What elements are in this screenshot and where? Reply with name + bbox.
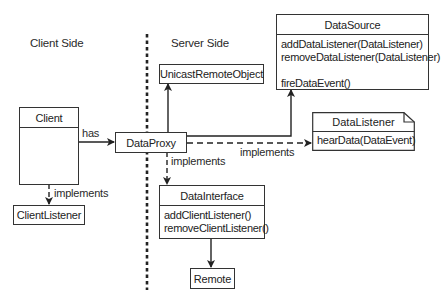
class-name: DataListener: [312, 112, 415, 131]
class-name: ClientListener: [17, 209, 81, 221]
clientlistener-interface[interactable]: ClientListener: [13, 205, 85, 225]
class-name: DataSource: [277, 15, 428, 35]
uml-class-diagram: Client Side Server Side UnicastRemoteObj…: [0, 0, 442, 301]
class-name: Client: [20, 108, 78, 128]
listener-implements-label: implements: [240, 146, 294, 158]
operations-compartment: addClientListener() removeClientListener…: [160, 206, 264, 235]
operation: addClientListener(): [164, 209, 260, 222]
operation: fireDataEvent(): [281, 77, 424, 90]
has-label: has: [82, 127, 99, 139]
class-name: Remote: [194, 273, 231, 285]
operation: removeClientListener(): [164, 222, 260, 235]
operations-compartment: addDataListener(DataListener) removeData…: [277, 35, 428, 90]
interface-implements-label: implements: [171, 155, 225, 167]
datasource-class[interactable]: DataSource addDataListener(DataListener)…: [276, 14, 429, 90]
datalistener-interface[interactable]: DataListener hearData(DataEvent): [312, 112, 415, 151]
client-implements-label: implements: [54, 187, 108, 199]
proxy-to-datasource-connector: [186, 90, 291, 136]
class-name: UnicastRemoteObject: [160, 68, 263, 80]
client-side-label: Client Side: [30, 37, 83, 49]
server-side-label: Server Side: [171, 37, 229, 49]
operation: addDataListener(DataListener): [281, 38, 424, 51]
operation: removeDataListener(DataListener): [281, 51, 424, 64]
remote-interface[interactable]: Remote: [190, 268, 235, 289]
class-name: DataInterface: [160, 186, 264, 206]
class-name: DataProxy: [126, 137, 176, 149]
operation: hearData(DataEvent): [317, 134, 415, 146]
dataproxy-class[interactable]: DataProxy: [115, 132, 187, 153]
datainterface-interface[interactable]: DataInterface addClientListener() remove…: [159, 185, 265, 239]
client-class[interactable]: Client: [19, 107, 79, 185]
unicast-remote-object-class[interactable]: UnicastRemoteObject: [159, 64, 264, 84]
